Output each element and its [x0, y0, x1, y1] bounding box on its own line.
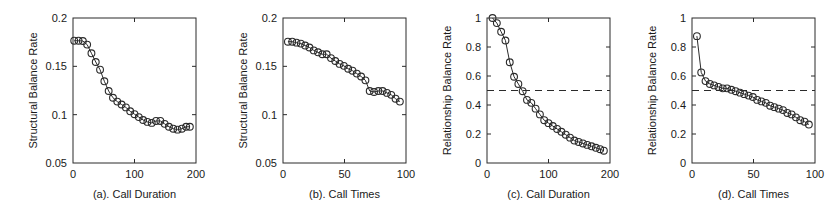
y-tick-label: 0.8: [671, 41, 686, 53]
panel-b: 0501000.050.10.150.2Structural Balance R…: [237, 12, 415, 200]
x-tick-label: 100: [397, 168, 415, 180]
x-tick-label: 0: [70, 168, 76, 180]
y-axis-title: Structural Balance Rate: [237, 32, 249, 148]
y-axis-title: Relationship Balance Rate: [646, 26, 658, 156]
plot-frame: [73, 18, 196, 163]
x-tick-label: 100: [539, 168, 557, 180]
x-tick-label: 200: [601, 168, 619, 180]
x-tick-label: 100: [125, 168, 143, 180]
y-tick-label: 0.6: [466, 70, 481, 82]
panel-caption: (d). Call Times: [718, 188, 789, 200]
data-line: [493, 18, 604, 151]
y-tick-label: 0.2: [262, 12, 277, 24]
x-tick-label: 50: [747, 168, 759, 180]
y-tick-label: 0.4: [671, 99, 686, 111]
panel-caption: (c). Call Duration: [507, 188, 590, 200]
panel-caption: (a). Call Duration: [93, 188, 176, 200]
y-tick-label: 0.8: [466, 41, 481, 53]
x-tick-label: 50: [338, 168, 350, 180]
y-tick-label: 0.2: [466, 128, 481, 140]
y-tick-label: 0: [680, 157, 686, 169]
x-tick-label: 200: [187, 168, 205, 180]
y-tick-label: 0.05: [256, 157, 277, 169]
y-tick-label: 1: [475, 12, 481, 24]
y-tick-label: 0: [475, 157, 481, 169]
y-axis-title: Relationship Balance Rate: [441, 26, 453, 156]
y-tick-label: 0.1: [262, 109, 277, 121]
x-tick-label: 100: [806, 168, 824, 180]
x-tick-label: 0: [280, 168, 286, 180]
y-tick-label: 0.05: [46, 157, 67, 169]
y-tick-label: 0.15: [256, 60, 277, 72]
x-tick-label: 0: [484, 168, 490, 180]
panel-caption: (b). Call Times: [309, 188, 380, 200]
y-tick-label: 0.15: [46, 60, 67, 72]
y-tick-label: 0.2: [52, 12, 67, 24]
four-panel-figure: 01002000.050.10.150.2Structural Balance …: [0, 0, 840, 214]
y-tick-label: 0.6: [671, 70, 686, 82]
panel-a: 01002000.050.10.150.2Structural Balance …: [27, 12, 205, 200]
panel-c: 010020000.20.40.60.81Relationship Balanc…: [441, 12, 619, 200]
y-tick-label: 0.2: [671, 128, 686, 140]
y-axis-title: Structural Balance Rate: [27, 32, 39, 148]
y-tick-label: 0.1: [52, 109, 67, 121]
y-tick-label: 0.4: [466, 99, 481, 111]
x-tick-label: 0: [689, 168, 695, 180]
y-tick-label: 1: [680, 12, 686, 24]
panel-d: 05010000.20.40.60.81Relationship Balance…: [646, 12, 824, 200]
